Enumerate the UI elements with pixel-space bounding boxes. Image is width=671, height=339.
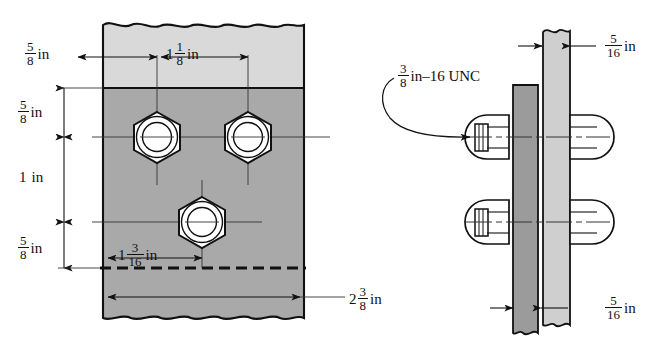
label-bolt-pitch-horizontal: 1 1 8 in: [166, 40, 199, 68]
fraction-bolt-pitch-horizontal: 1 8: [175, 40, 186, 68]
fraction-edge-distance-bottom: 5 8: [18, 234, 29, 262]
side-plate-dark-body: [511, 83, 541, 338]
bolt-assembly-upper: [465, 115, 614, 159]
label-plate-thickness-top: 5 16 in: [604, 32, 636, 60]
label-lower-bolt-offset: 1 3 16 in: [118, 241, 157, 269]
label-bolt-pitch-vertical: 1in: [19, 170, 43, 185]
fraction-plate-thickness-bottom: 5 16: [605, 294, 622, 322]
front-plate-upper-band: [100, 18, 308, 88]
side-plate-light-body: [540, 25, 572, 330]
label-thread-callout: 3 8 in–16 UNC: [397, 62, 480, 90]
front-view-group: [58, 18, 345, 324]
label-edge-distance-bottom: 5 8 in: [17, 234, 42, 262]
label-overall-width: 2 3 8 in: [349, 285, 382, 313]
label-plate-thickness-bottom: 5 16 in: [604, 294, 636, 322]
front-plate-body: [100, 18, 308, 324]
fraction-overall-width: 3 8: [358, 285, 369, 313]
engineering-drawing-canvas: 5 8 in 1 1 8 in 5 8 in 1in 5 8 in 1 3 16…: [0, 0, 671, 339]
fraction-lower-bolt-offset: 3 16: [127, 241, 144, 269]
label-edge-distance-top: 5 8 in: [17, 98, 42, 126]
label-edge-distance-left: 5 8 in: [24, 40, 49, 68]
drawing-svg: [0, 0, 671, 339]
fraction-plate-thickness-top: 5 16: [605, 32, 622, 60]
bolt-assembly-lower: [465, 200, 614, 244]
fraction-edge-distance-top: 5 8: [18, 98, 29, 126]
fraction-thread-size: 3 8: [398, 62, 409, 90]
fraction-edge-distance-left: 5 8: [25, 40, 36, 68]
